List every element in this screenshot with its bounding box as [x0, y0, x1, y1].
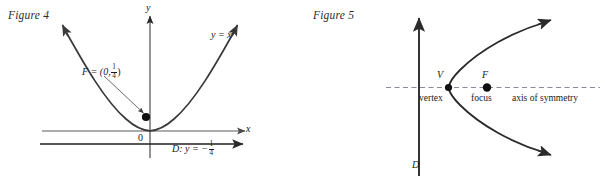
- focus-point-marker: [142, 113, 150, 121]
- directrix-equation-label: D: y = −14: [172, 141, 215, 157]
- axis-of-symmetry-label: axis of symmetry: [512, 94, 578, 104]
- curve-equation-exponent: 2: [232, 28, 235, 35]
- figure-panel: Figure 4: [0, 0, 605, 180]
- vertex-point-label: V: [437, 70, 443, 80]
- curve-equation-label: y = x2: [211, 29, 235, 40]
- focus-label-tail: ): [117, 66, 120, 77]
- focus-fraction-denominator: 4: [111, 72, 117, 81]
- directrix-label-lead: D: y = −: [172, 143, 208, 154]
- curve-equation-text: y = x: [211, 29, 232, 40]
- focus-leader-arrow: [104, 76, 144, 113]
- parabola-left-arrow: [63, 25, 69, 36]
- figure-5-graphic: [0, 0, 600, 176]
- origin-label: 0: [138, 133, 143, 143]
- figure-5-focus-point-marker: [483, 83, 491, 91]
- focus-coordinate-label: F = (0,14): [82, 64, 121, 80]
- y-axis-label: y: [146, 3, 150, 13]
- focus-label-lead: F = (0,: [82, 66, 111, 77]
- focus-fraction-numerator: 1: [111, 64, 117, 72]
- directrix-fraction: 14: [209, 141, 215, 157]
- figure-5-upper-arrow: [538, 20, 551, 25]
- figure-5-caption: Figure 5: [313, 9, 354, 21]
- directrix-fraction-denominator: 4: [209, 149, 215, 158]
- focus-fraction: 14: [111, 64, 117, 80]
- vertex-point-marker: [445, 84, 452, 91]
- figure-5-focus-point-label: F: [482, 70, 488, 80]
- figure-5-directrix-label: D: [412, 160, 419, 170]
- figure-5-focus-word-label: focus: [471, 94, 492, 104]
- x-axis-label: x: [246, 124, 250, 134]
- figure-5-lower-arrow: [538, 151, 551, 156]
- directrix-fraction-numerator: 1: [209, 141, 215, 149]
- vertex-word-label: vertex: [419, 94, 443, 104]
- figure-4-graphic: [0, 0, 605, 180]
